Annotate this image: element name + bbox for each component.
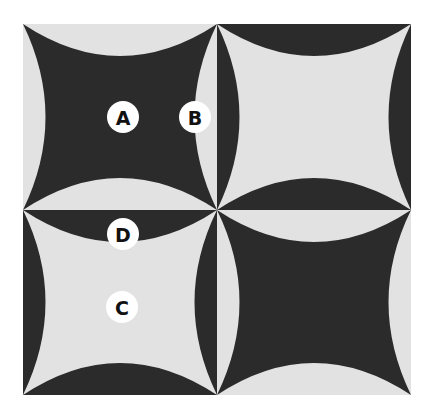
tile-top-right	[217, 24, 411, 210]
svg-text:A: A	[116, 107, 131, 129]
label-d: D	[107, 218, 139, 250]
quilt-diagram: A B D C	[0, 0, 433, 414]
svg-text:C: C	[115, 297, 129, 319]
label-c: C	[106, 291, 138, 323]
label-b: B	[179, 101, 211, 133]
label-a: A	[107, 101, 139, 133]
svg-text:B: B	[188, 107, 202, 129]
tile-bottom-right	[217, 210, 411, 395]
svg-text:D: D	[115, 224, 131, 246]
